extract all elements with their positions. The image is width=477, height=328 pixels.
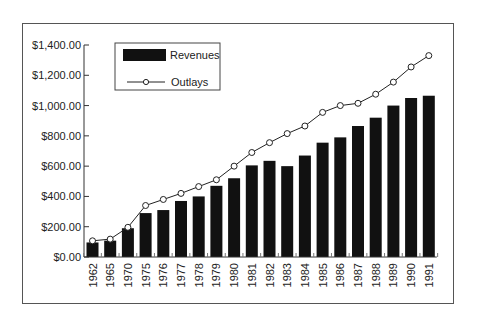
revenue-bar xyxy=(122,228,134,257)
x-tick-label: 1990 xyxy=(405,263,417,287)
x-tick-label: 1987 xyxy=(352,263,364,287)
legend: Revenues Outlays xyxy=(115,43,220,90)
revenue-bar xyxy=(228,178,240,257)
outlays-marker-icon xyxy=(143,203,149,209)
y-tick-label: $0.00 xyxy=(53,251,81,263)
outlays-marker-icon xyxy=(408,64,414,70)
revenue-bar xyxy=(87,242,99,257)
revenue-bar xyxy=(210,186,222,257)
x-tick-label: 1979 xyxy=(210,263,222,287)
y-tick-label: $200.00 xyxy=(41,221,81,233)
x-tick-label: 1984 xyxy=(299,263,311,287)
y-tick-label: $1,000.00 xyxy=(32,100,81,112)
outlays-marker-icon xyxy=(267,140,273,146)
y-tick-label: $1,400.00 xyxy=(32,39,81,51)
outlays-marker-icon xyxy=(355,100,361,106)
revenue-bar xyxy=(281,166,293,257)
revenue-bar xyxy=(104,241,116,257)
x-axis: 1962196519701975197619771978197919801981… xyxy=(84,253,438,287)
x-tick-label: 1982 xyxy=(264,263,276,287)
outlays-marker-icon xyxy=(213,177,219,183)
outlays-marker-icon xyxy=(302,123,308,129)
outlays-marker-icon xyxy=(125,224,131,230)
revenue-bar xyxy=(175,201,187,257)
x-tick-label: 1989 xyxy=(387,263,399,287)
outlays-marker-icon xyxy=(320,109,326,115)
revenue-bar xyxy=(370,118,382,257)
outlays-marker-icon xyxy=(231,163,237,169)
revenue-bar xyxy=(423,96,435,257)
x-tick-label: 1962 xyxy=(87,263,99,287)
revenue-bar xyxy=(140,213,152,257)
y-tick-label: $400.00 xyxy=(41,190,81,202)
x-tick-label: 1965 xyxy=(104,263,116,287)
outlays-marker-icon xyxy=(390,79,396,85)
outlays-marker-icon xyxy=(196,184,202,190)
revenue-bar xyxy=(299,156,311,257)
outlays-marker-icon xyxy=(426,53,432,59)
y-axis: $0.00$200.00$400.00$600.00$800.00$1,000.… xyxy=(32,39,89,263)
legend-revenues-swatch xyxy=(123,49,166,61)
x-tick-label: 1980 xyxy=(228,263,240,287)
revenue-bar xyxy=(246,165,258,257)
revenue-bar xyxy=(317,143,329,257)
revenue-bar xyxy=(264,161,276,257)
revenue-bar xyxy=(157,210,169,257)
revenues-bars xyxy=(87,96,435,257)
x-tick-label: 1988 xyxy=(370,263,382,287)
legend-outlays-label: Outlays xyxy=(171,76,209,88)
outlays-marker-icon xyxy=(284,131,290,137)
outlays-marker-icon xyxy=(90,238,96,244)
revenue-bar xyxy=(387,106,399,257)
outlays-marker-icon xyxy=(160,196,166,202)
y-tick-label: $800.00 xyxy=(41,130,81,142)
x-tick-label: 1986 xyxy=(334,263,346,287)
revenue-bar xyxy=(193,196,205,257)
legend-revenues-label: Revenues xyxy=(170,49,220,61)
x-tick-label: 1978 xyxy=(193,263,205,287)
x-tick-label: 1977 xyxy=(175,263,187,287)
revenue-bar xyxy=(352,126,364,257)
x-tick-label: 1983 xyxy=(281,263,293,287)
outlays-marker-icon xyxy=(107,236,113,242)
x-tick-label: 1976 xyxy=(157,263,169,287)
x-tick-label: 1991 xyxy=(423,263,435,287)
x-tick-label: 1985 xyxy=(317,263,329,287)
legend-outlays-marker-icon xyxy=(143,79,148,84)
y-tick-label: $600.00 xyxy=(41,160,81,172)
x-tick-label: 1970 xyxy=(122,263,134,287)
outlays-marker-icon xyxy=(178,190,184,196)
outlays-marker-icon xyxy=(337,103,343,109)
revenue-bar xyxy=(334,137,346,257)
outlays-marker-icon xyxy=(373,91,379,97)
revenue-bar xyxy=(405,98,417,257)
chart-canvas: $0.00$200.00$400.00$600.00$800.00$1,000.… xyxy=(0,0,477,328)
x-tick-label: 1981 xyxy=(246,263,258,287)
x-tick-label: 1975 xyxy=(140,263,152,287)
outlays-marker-icon xyxy=(249,150,255,156)
y-tick-label: $1,200.00 xyxy=(32,69,81,81)
